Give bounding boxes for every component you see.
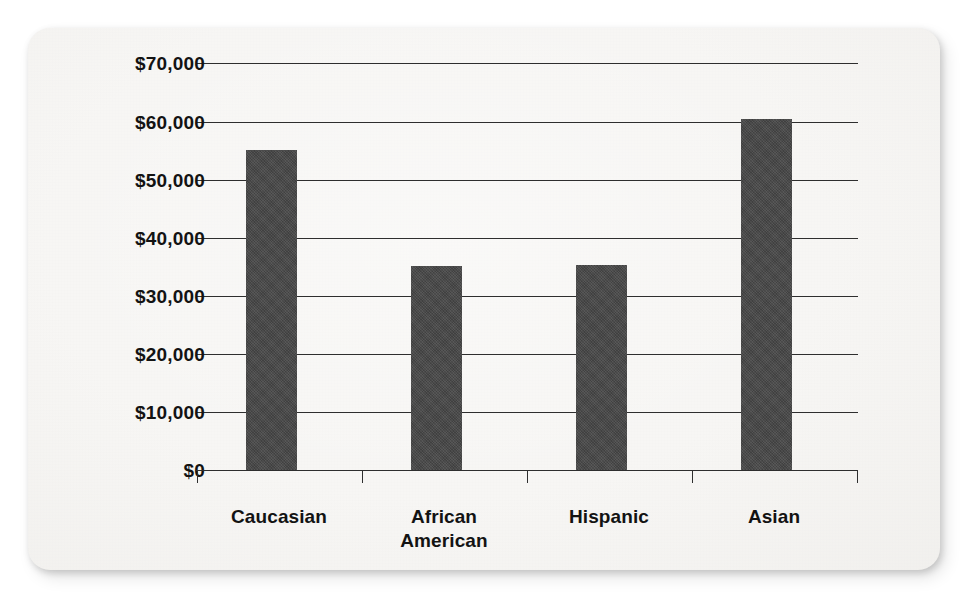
y-axis-label-20000: $20,000	[55, 345, 205, 364]
bar-hispanic	[576, 265, 627, 470]
bar-african-american	[411, 266, 462, 470]
x-axis-label-african-american-line2: American	[361, 529, 527, 553]
x-axis-tick-start	[197, 470, 198, 483]
x-axis-label-african-american-line1: African	[361, 505, 527, 529]
gridline-70000	[196, 63, 858, 64]
x-axis-tick-1	[362, 470, 363, 483]
bar-caucasian	[246, 150, 297, 470]
x-axis-label-caucasian-line1: Caucasian	[196, 505, 362, 529]
y-axis-label-0: $0	[55, 461, 205, 480]
x-axis-tick-3	[692, 470, 693, 483]
y-axis-label-50000: $50,000	[55, 171, 205, 190]
y-axis-label-40000: $40,000	[55, 229, 205, 248]
bar-chart: $70,000 $60,000 $50,000 $40,000 $30,000 …	[28, 28, 940, 570]
x-axis-label-hispanic: Hispanic	[526, 505, 692, 529]
x-axis-tick-2	[527, 470, 528, 483]
page-root: $70,000 $60,000 $50,000 $40,000 $30,000 …	[0, 0, 977, 605]
bar-asian	[741, 119, 792, 470]
x-axis-tick-end	[857, 470, 858, 483]
figure-card: $70,000 $60,000 $50,000 $40,000 $30,000 …	[28, 28, 940, 570]
y-axis-label-70000: $70,000	[55, 54, 205, 73]
y-axis-label-60000: $60,000	[55, 113, 205, 132]
x-axis-label-asian: Asian	[691, 505, 857, 529]
y-axis-label-30000: $30,000	[55, 287, 205, 306]
x-axis-label-african-american: African American	[361, 505, 527, 553]
x-axis-label-caucasian: Caucasian	[196, 505, 362, 529]
x-axis-label-hispanic-line1: Hispanic	[526, 505, 692, 529]
y-axis-label-10000: $10,000	[55, 403, 205, 422]
x-axis-label-asian-line1: Asian	[691, 505, 857, 529]
